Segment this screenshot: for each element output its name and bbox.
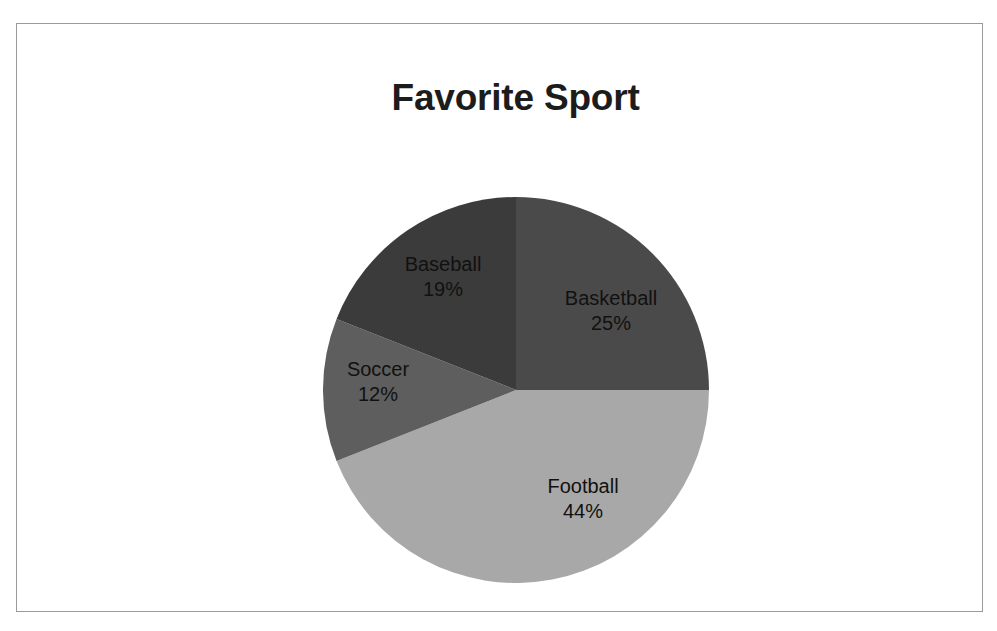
pie-label-basketball-name: Basketball xyxy=(541,286,681,311)
pie-label-baseball-value: 19% xyxy=(384,277,502,302)
pie-label-basketball: Basketball 25% xyxy=(541,286,681,336)
pie-label-football-value: 44% xyxy=(513,499,653,524)
pie-label-football-name: Football xyxy=(513,474,653,499)
chart-page: Favorite Sport Basketball 25% Football 4… xyxy=(0,0,997,631)
pie-label-soccer-name: Soccer xyxy=(323,357,433,382)
pie-label-baseball-name: Baseball xyxy=(384,252,502,277)
chart-frame: Favorite Sport Basketball 25% Football 4… xyxy=(16,23,983,612)
pie-label-baseball: Baseball 19% xyxy=(384,252,502,302)
pie-label-soccer-value: 12% xyxy=(323,382,433,407)
pie-label-basketball-value: 25% xyxy=(541,311,681,336)
pie-label-soccer: Soccer 12% xyxy=(323,357,433,407)
page-title: Favorite Sport xyxy=(17,76,997,120)
pie-label-football: Football 44% xyxy=(513,474,653,524)
